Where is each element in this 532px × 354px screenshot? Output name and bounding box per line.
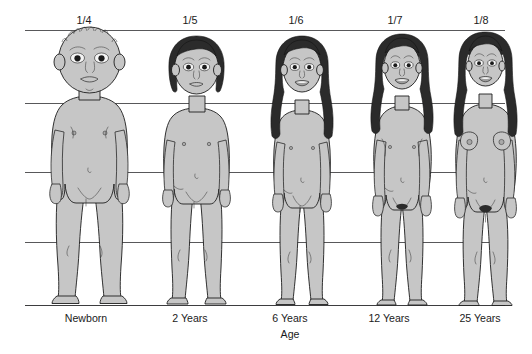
ratio-label-12-years: 1/7 <box>387 14 402 26</box>
y6-left-pupil <box>293 65 297 69</box>
newborn-left-pupil <box>74 55 80 61</box>
y25-right-pupil <box>490 61 494 65</box>
newborn-right-foot <box>100 296 127 304</box>
newborn-left-ear <box>54 54 65 70</box>
ratio-label-6-years: 1/6 <box>288 14 303 26</box>
y12-right-foot <box>408 300 427 305</box>
y6-right-ear <box>317 65 324 76</box>
newborn-right-hand <box>118 184 130 204</box>
newborn-head <box>59 27 121 93</box>
y12-left-hand <box>373 196 384 216</box>
newborn-left-foot <box>52 296 79 304</box>
ratio-label-2-years: 1/5 <box>182 14 197 26</box>
y25-left-hand <box>455 198 466 218</box>
newborn-right-nipple <box>103 131 107 135</box>
age-label-12-years: 12 Years <box>368 312 409 324</box>
axis-label-age: Age <box>281 328 300 340</box>
ratio-label-25-years: 1/8 <box>473 14 488 26</box>
y6-left-nipple <box>289 146 292 149</box>
newborn-left-hand <box>50 184 62 204</box>
y12-right-nipple <box>412 145 415 148</box>
y2-left-nipple <box>182 142 185 145</box>
y6-left-hand <box>273 194 284 212</box>
y6-right-pupil <box>307 65 311 69</box>
y2-left-foot <box>167 298 188 304</box>
newborn-left-nipple <box>72 131 76 135</box>
y12-neck <box>395 96 409 110</box>
y2-right-hand <box>220 190 231 207</box>
age-label-6-years: 6 Years <box>272 312 307 324</box>
y25-left-pupil <box>477 61 481 65</box>
y25-left-nipple <box>467 139 472 144</box>
y2-neck <box>189 96 205 112</box>
y6-right-nipple <box>311 146 314 149</box>
newborn-right-ear <box>114 54 125 70</box>
y2-right-pupil <box>202 65 207 70</box>
y25-right-ear <box>499 61 505 71</box>
age-label-25-years: 25 Years <box>459 312 500 324</box>
y2-right-ear <box>214 64 222 76</box>
y2-left-pupil <box>186 65 191 70</box>
y6-left-foot <box>276 299 295 305</box>
y6-neck <box>295 100 309 114</box>
y12-right-ear <box>416 63 422 73</box>
age-label-2-years: 2 Years <box>172 312 207 324</box>
y6-right-hand <box>321 194 332 212</box>
y25-right-hand <box>506 198 517 218</box>
newborn-right-pupil <box>98 55 104 61</box>
y2-right-nipple <box>207 142 210 145</box>
y25-neck <box>479 94 492 108</box>
age-label-newborn: Newborn <box>65 312 108 324</box>
y12-left-pupil <box>393 63 397 67</box>
y12-left-nipple <box>388 145 391 148</box>
y25-right-foot <box>492 301 512 306</box>
y2-right-foot <box>205 298 226 304</box>
y6-right-foot <box>309 299 328 305</box>
y6-left-ear <box>281 65 288 76</box>
y12-left-foot <box>377 300 396 305</box>
y2-left-hand <box>163 190 174 207</box>
ratio-label-newborn: 1/4 <box>76 14 91 26</box>
y12-right-pupil <box>407 63 411 67</box>
y12-right-hand <box>421 196 432 216</box>
y25-left-foot <box>459 301 479 306</box>
y25-left-ear <box>466 61 472 71</box>
body-proportions-figure: 1/4 1/5 1/6 1/7 1/8 Newborn 2 Years 6 Ye… <box>0 0 532 354</box>
y25-right-nipple <box>499 139 504 144</box>
y2-left-ear <box>172 64 180 76</box>
y12-left-ear <box>382 63 388 73</box>
proportion-chart-svg: 1/4 1/5 1/6 1/7 1/8 Newborn 2 Years 6 Ye… <box>0 0 532 354</box>
